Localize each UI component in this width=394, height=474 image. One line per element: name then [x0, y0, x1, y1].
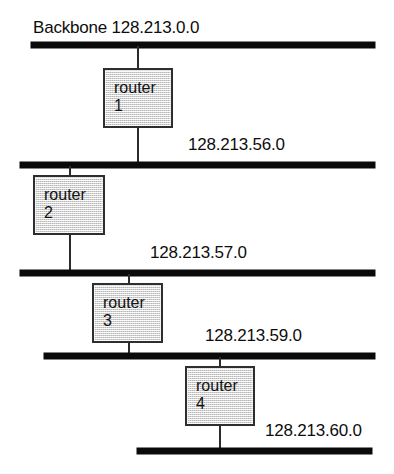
- seg-56-label: 128.213.56.0: [188, 135, 285, 155]
- router-1-name: router: [114, 79, 156, 97]
- router-2-box[interactable]: router 2: [33, 175, 105, 235]
- network-diagram: Backbone 128.213.0.0 router 1 128.213.56…: [0, 0, 394, 474]
- seg-60-label: 128.213.60.0: [265, 421, 362, 441]
- bus-seg-60: [137, 448, 372, 454]
- router-4-number: 4: [196, 395, 205, 413]
- router-3-number: 3: [103, 312, 112, 330]
- link-router-2-seg-57: [69, 234, 71, 272]
- bus-seg-57: [20, 270, 375, 276]
- router-1-box[interactable]: router 1: [103, 68, 173, 128]
- seg-57-label: 128.213.57.0: [150, 243, 247, 263]
- backbone-label: Backbone 128.213.0.0: [33, 18, 199, 38]
- bus-backbone: [31, 42, 375, 48]
- router-2-number: 2: [44, 204, 53, 222]
- seg-59-label: 128.213.59.0: [205, 326, 302, 346]
- bus-seg-59: [44, 353, 375, 359]
- router-4-name: router: [196, 377, 238, 395]
- bus-seg-56: [20, 162, 375, 168]
- router-4-box[interactable]: router 4: [185, 366, 255, 426]
- router-3-name: router: [103, 294, 145, 312]
- router-3-box[interactable]: router 3: [92, 283, 163, 343]
- link-router-4-seg-60: [219, 425, 221, 449]
- link-router-1-seg-56: [137, 127, 139, 163]
- router-2-name: router: [44, 186, 86, 204]
- router-1-number: 1: [114, 97, 123, 115]
- link-backbone-router-1: [137, 46, 139, 69]
